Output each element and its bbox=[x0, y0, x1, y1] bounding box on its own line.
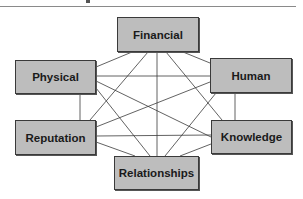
node-physical: Physical bbox=[15, 60, 96, 94]
edge-reputation-knowledge bbox=[96, 135, 211, 136]
node-human: Human bbox=[210, 58, 292, 93]
edge-physical-knowledge bbox=[96, 81, 211, 137]
node-relationships: Relationships bbox=[114, 156, 199, 190]
edge-knowledge-relationships bbox=[180, 144, 211, 156]
edge-human-reputation bbox=[96, 82, 210, 127]
edge-physical-relationships bbox=[96, 88, 150, 156]
node-financial: Financial bbox=[117, 17, 199, 52]
edge-financial-physical bbox=[96, 52, 132, 67]
edge-reputation-relationships bbox=[96, 142, 135, 156]
node-reputation: Reputation bbox=[15, 120, 96, 155]
node-knowledge: Knowledge bbox=[211, 120, 292, 154]
edge-human-relationships bbox=[165, 93, 216, 156]
edge-financial-human bbox=[183, 52, 210, 63]
